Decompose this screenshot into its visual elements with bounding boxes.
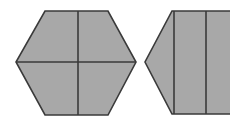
figure-canvas [0, 0, 230, 124]
